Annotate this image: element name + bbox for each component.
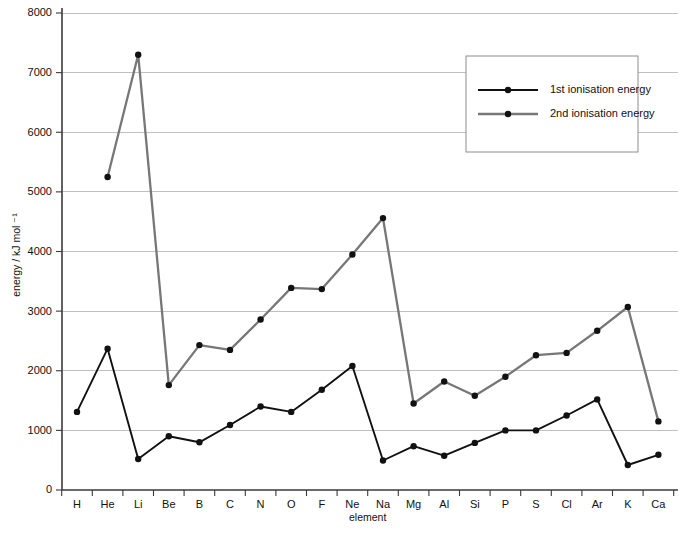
series-line-1 [77,349,658,465]
xtick-label-Ca: Ca [651,498,666,510]
data-point-series2-3 [196,342,202,348]
data-point-series1-0 [74,409,80,415]
data-point-series2-7 [319,286,325,292]
xtick-label-H: H [73,498,81,510]
data-point-series2-2 [166,382,172,388]
xtick-label-K: K [624,498,632,510]
ytick-label-4000: 4000 [28,245,52,257]
data-point-series1-19 [655,452,661,458]
data-point-series1-14 [502,427,508,433]
xtick-label-Li: Li [134,498,143,510]
chart-plot-area: 010002000300040005000600070008000HHeLiBe… [0,0,687,534]
data-point-series2-15 [563,350,569,356]
data-point-series1-18 [625,462,631,468]
xtick-label-Be: Be [162,498,175,510]
data-point-series1-7 [288,409,294,415]
data-point-series2-6 [288,285,294,291]
ytick-label-1000: 1000 [28,424,52,436]
data-point-series2-0 [104,174,110,180]
ionisation-energy-chart: 010002000300040005000600070008000HHeLiBe… [0,0,687,534]
xtick-label-O: O [287,498,296,510]
legend-label-1: 1st ionisation energy [550,83,651,95]
data-point-series1-17 [594,396,600,402]
data-point-series2-18 [655,418,661,424]
data-point-series1-2 [135,456,141,462]
data-point-series1-8 [319,387,325,393]
ytick-label-6000: 6000 [28,126,52,138]
xtick-label-He: He [101,498,115,510]
xtick-label-B: B [196,498,203,510]
ytick-label-5000: 5000 [28,185,52,197]
xtick-label-S: S [532,498,539,510]
xtick-label-Al: Al [439,498,449,510]
data-point-series2-12 [472,393,478,399]
ytick-label-7000: 7000 [28,66,52,78]
data-point-series1-3 [166,433,172,439]
data-point-series2-1 [135,52,141,58]
data-point-series2-16 [594,328,600,334]
data-point-series2-14 [533,352,539,358]
data-point-series1-12 [441,453,447,459]
xtick-label-Mg: Mg [406,498,421,510]
legend-box [466,56,638,152]
xtick-label-N: N [257,498,265,510]
xtick-label-F: F [318,498,325,510]
data-point-series1-6 [257,403,263,409]
ytick-label-3000: 3000 [28,305,52,317]
data-point-series1-16 [563,412,569,418]
xtick-label-Ar: Ar [592,498,603,510]
data-point-series1-1 [104,346,110,352]
ytick-label-0: 0 [46,483,52,495]
legend-label-2: 2nd ionisation energy [550,107,655,119]
data-point-series2-17 [625,304,631,310]
data-point-series2-11 [441,378,447,384]
legend-marker-2 [505,111,511,117]
data-point-series2-10 [410,400,416,406]
x-axis-title: element [349,511,386,523]
xtick-label-Cl: Cl [561,498,571,510]
ytick-label-2000: 2000 [28,364,52,376]
xtick-label-P: P [502,498,509,510]
data-point-series2-8 [349,251,355,257]
data-point-series2-4 [227,347,233,353]
data-point-series1-4 [196,439,202,445]
data-point-series2-13 [502,374,508,380]
data-point-series2-5 [257,316,263,322]
legend-marker-1 [505,87,511,93]
data-point-series1-13 [472,440,478,446]
xtick-label-Si: Si [470,498,480,510]
data-point-series1-9 [349,363,355,369]
xtick-label-C: C [226,498,234,510]
data-point-series2-9 [380,215,386,221]
y-axis-title: energy / kJ mol ⁻¹ [10,213,22,297]
data-point-series1-15 [533,427,539,433]
data-point-series1-11 [410,443,416,449]
xtick-label-Na: Na [376,498,391,510]
ytick-label-8000: 8000 [28,6,52,18]
data-point-series1-10 [380,457,386,463]
xtick-label-Ne: Ne [345,498,359,510]
data-point-series1-5 [227,422,233,428]
